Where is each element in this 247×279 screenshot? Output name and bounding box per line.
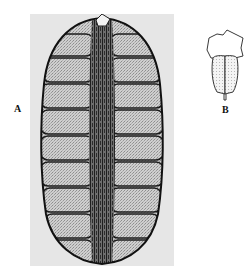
sporangiophore-illustration [203, 28, 247, 102]
panel-label-b: B [222, 104, 229, 115]
cone-section-illustration [30, 14, 174, 266]
panel-label-a: A [14, 103, 21, 114]
panel-a-micrograph [30, 14, 174, 266]
panel-b-drawing [203, 28, 247, 102]
